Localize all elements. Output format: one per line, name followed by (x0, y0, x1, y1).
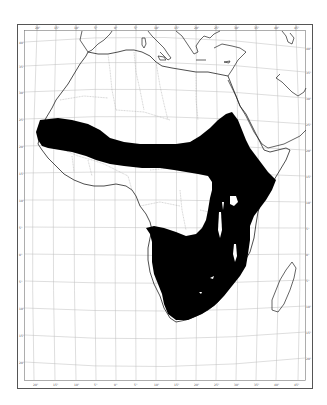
svg-text:10°: 10° (19, 199, 25, 203)
svg-text:10°: 10° (74, 26, 80, 30)
svg-text:20°: 20° (306, 149, 312, 153)
svg-text:15°: 15° (19, 172, 25, 176)
svg-text:30°: 30° (234, 26, 240, 30)
svg-text:15°: 15° (174, 26, 180, 30)
svg-text:15°: 15° (53, 383, 59, 387)
svg-text:20°: 20° (194, 383, 200, 387)
svg-text:5°: 5° (134, 383, 138, 387)
svg-text:0°: 0° (114, 26, 118, 30)
left-tick-labels: 40° 35° 30° 25° 20° 15° 10° 5° 0° 5° 10°… (19, 41, 25, 365)
svg-text:5°: 5° (94, 383, 98, 387)
svg-text:40°: 40° (306, 47, 312, 51)
svg-text:5°: 5° (94, 26, 98, 30)
svg-text:15°: 15° (54, 26, 60, 30)
svg-text:20°: 20° (35, 26, 41, 30)
bottom-tick-labels: 20° 15° 10° 5° 0° 5° 10° 15° 20° 25° 30°… (33, 383, 300, 387)
madagascar-outline (272, 262, 296, 312)
svg-text:25°: 25° (214, 26, 220, 30)
svg-text:35°: 35° (254, 383, 260, 387)
svg-text:20°: 20° (306, 357, 312, 361)
svg-text:20°: 20° (194, 26, 200, 30)
svg-text:10°: 10° (306, 305, 312, 309)
svg-text:40°: 40° (274, 26, 280, 30)
svg-text:15°: 15° (306, 175, 312, 179)
map-inner-frame (25, 31, 306, 381)
svg-text:10°: 10° (154, 26, 160, 30)
svg-text:45°: 45° (294, 383, 300, 387)
svg-text:10°: 10° (154, 383, 160, 387)
svg-text:30°: 30° (306, 97, 312, 101)
svg-text:35°: 35° (19, 65, 25, 69)
svg-text:5°: 5° (134, 26, 138, 30)
map-outer-frame (18, 25, 313, 389)
svg-text:5°: 5° (19, 280, 23, 284)
svg-text:10°: 10° (74, 383, 80, 387)
svg-text:25°: 25° (19, 118, 25, 122)
svg-text:15°: 15° (19, 334, 25, 338)
svg-text:5°: 5° (306, 279, 310, 283)
svg-text:10°: 10° (306, 201, 312, 205)
svg-text:5°: 5° (19, 226, 23, 230)
svg-text:15°: 15° (306, 331, 312, 335)
svg-text:40°: 40° (19, 41, 25, 45)
svg-text:30°: 30° (234, 383, 240, 387)
right-tick-labels: 40° 35° 30° 25° 20° 15° 10° 5° 0° 5° 10°… (306, 47, 312, 361)
svg-text:20°: 20° (33, 383, 39, 387)
svg-text:0°: 0° (19, 253, 23, 257)
svg-text:20°: 20° (19, 361, 25, 365)
svg-text:0°: 0° (306, 253, 310, 257)
africa-distribution-map: 20° 15° 10° 5° 0° 5° 10° 15° 20° 25° 30°… (0, 0, 327, 405)
svg-text:40°: 40° (274, 383, 280, 387)
svg-text:25°: 25° (214, 383, 220, 387)
svg-text:10°: 10° (19, 307, 25, 311)
svg-text:35°: 35° (306, 71, 312, 75)
svg-text:0°: 0° (114, 383, 118, 387)
top-tick-labels: 20° 15° 10° 5° 0° 5° 10° 15° 20° 25° 30°… (35, 26, 300, 30)
svg-text:45°: 45° (294, 26, 300, 30)
svg-text:25°: 25° (306, 123, 312, 127)
svg-text:5°: 5° (306, 227, 310, 231)
svg-text:15°: 15° (174, 383, 180, 387)
svg-text:20°: 20° (19, 145, 25, 149)
svg-text:35°: 35° (254, 26, 260, 30)
svg-text:30°: 30° (19, 91, 25, 95)
